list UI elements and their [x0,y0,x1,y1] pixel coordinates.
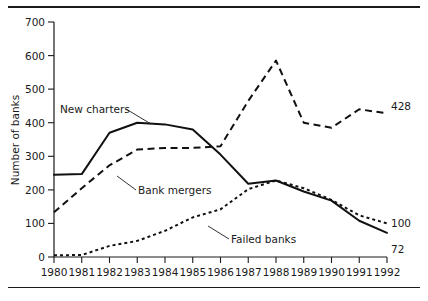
xtick-label: 1983 [124,266,151,278]
y-tick-marks [48,22,54,257]
xtick-label: 1988 [263,266,290,278]
annotation-bank-mergers: Bank mergers [117,176,211,196]
xtick-label: 1989 [290,266,317,278]
ytick-label: 500 [25,83,45,95]
annotation-new-charters: New charters [60,103,151,124]
annotation-label: Failed banks [231,233,296,245]
y-axis-title: Number of banks [9,95,21,185]
line-chart: 0 100 200 300 400 500 600 700 Number of … [0,0,428,301]
ytick-label: 0 [38,251,45,263]
series-line-bank-mergers [54,61,387,213]
xtick-label: 1982 [96,266,123,278]
xtick-label: 1980 [41,266,68,278]
x-tick-marks [54,257,387,263]
ytick-label: 300 [25,150,45,162]
xtick-label: 1981 [68,266,95,278]
annotation-label: Bank mergers [138,184,211,196]
ytick-label: 600 [25,50,45,62]
xtick-label: 1990 [318,266,345,278]
series-line-new-charters [54,123,387,233]
xtick-label: 1991 [346,266,373,278]
y-axis-tick-labels: 0 100 200 300 400 500 600 700 [25,16,45,263]
xtick-label: 1985 [179,266,206,278]
xtick-label: 1984 [152,266,179,278]
x-axis-tick-labels: 1980 1981 1982 1983 1984 1985 1986 1987 … [41,266,401,278]
xtick-label: 1986 [207,266,234,278]
series-line-failed-banks [54,180,387,255]
figure-container: 0 100 200 300 400 500 600 700 Number of … [0,0,428,301]
ytick-label: 100 [25,217,45,229]
annotation-label: New charters [60,103,130,115]
ytick-label: 200 [25,184,45,196]
xtick-label: 1987 [235,266,262,278]
end-label-new-charters: 72 [391,243,404,255]
annotation-failed-banks: Failed banks [208,226,296,245]
ytick-label: 700 [25,16,45,28]
xtick-label: 1992 [374,266,401,278]
end-label-bank-mergers: 428 [391,100,411,112]
ytick-label: 400 [25,117,45,129]
end-label-failed-banks: 100 [391,217,411,229]
